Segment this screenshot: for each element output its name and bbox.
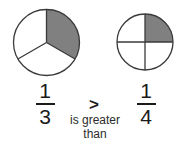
right-fraction-circle-one-fourth bbox=[115, 12, 175, 72]
right-fraction-one-fourth: 1 4 bbox=[126, 80, 166, 128]
comparison-symbol-greater-than: > bbox=[76, 96, 112, 113]
fraction-comparison-figure: 1 3 > is greater than 1 4 bbox=[0, 0, 189, 153]
one-third-pie-svg bbox=[12, 8, 81, 77]
divider-radius-lower-left bbox=[18, 43, 47, 60]
right-fraction-denominator: 4 bbox=[126, 106, 166, 128]
left-fraction-numerator: 1 bbox=[25, 80, 65, 102]
one-fourth-pie-svg bbox=[115, 12, 175, 72]
comparison-words-line-2: than bbox=[50, 127, 140, 141]
left-fraction-circle-one-third bbox=[12, 8, 81, 77]
right-fraction-numerator: 1 bbox=[126, 80, 166, 102]
